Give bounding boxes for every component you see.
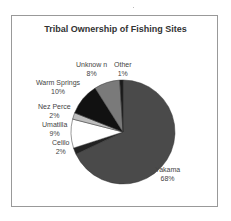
pie-chart xyxy=(0,0,231,221)
label-yakama: Yakama68% xyxy=(155,165,180,183)
label-other: Other1% xyxy=(114,60,132,78)
label-nez-perce: Nez Perce2% xyxy=(38,102,71,120)
label-unknown: Unknow n8% xyxy=(76,60,107,78)
label-warm-springs: Warm Springs10% xyxy=(36,78,80,96)
label-celilo: Celilo2% xyxy=(52,138,70,156)
label-umatilla: Umatilla9% xyxy=(42,120,67,138)
